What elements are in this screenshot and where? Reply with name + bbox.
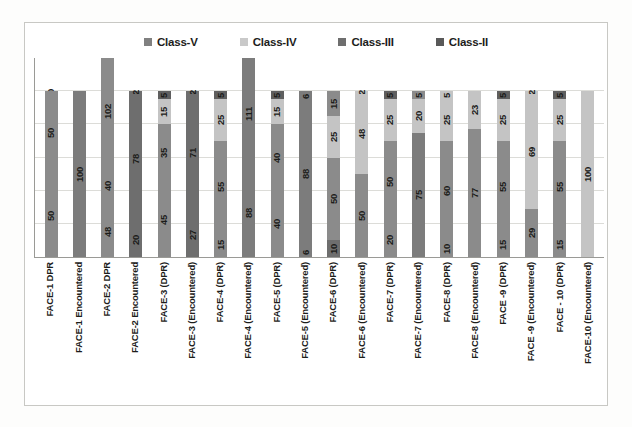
- bar-segment[interactable]: 6: [299, 247, 312, 257]
- bar-segment[interactable]: 5: [384, 91, 397, 99]
- bar-segment-label: 20: [414, 111, 424, 121]
- bar-segment[interactable]: 27: [186, 212, 199, 257]
- bar-segment[interactable]: 100: [73, 91, 86, 257]
- legend-item: Class-II: [436, 36, 488, 48]
- stacked-bar[interactable]: 5255020: [384, 91, 397, 257]
- bar-segment[interactable]: 50: [327, 158, 340, 241]
- stacked-bar[interactable]: 5255515: [497, 91, 510, 257]
- bar-segment-label: 20: [385, 235, 395, 245]
- bar-segment[interactable]: 55: [497, 141, 510, 232]
- stacked-bar[interactable]: 100: [581, 91, 594, 257]
- legend-label: Class-III: [351, 36, 393, 48]
- bar-segment[interactable]: 15: [214, 232, 227, 257]
- bar-segment[interactable]: 50: [384, 141, 397, 224]
- bar-slot: 1024048: [94, 58, 122, 257]
- bar-segment[interactable]: 15: [497, 232, 510, 257]
- bar-segment[interactable]: 20: [412, 99, 425, 132]
- x-axis-label-slot: FACE-4 (Encountered): [234, 262, 262, 412]
- bar-segment[interactable]: 20: [129, 224, 142, 257]
- bar-segment[interactable]: 40: [271, 124, 284, 190]
- bar-segment[interactable]: 88: [299, 101, 312, 247]
- bar-segment[interactable]: 15: [553, 232, 566, 257]
- bar-segment-label: 69: [527, 147, 537, 157]
- stacked-bar[interactable]: 100: [73, 91, 86, 257]
- stacked-bar[interactable]: 24850: [355, 91, 368, 257]
- x-axis-label: FACE-4 (DPR): [215, 262, 225, 324]
- bar-segment[interactable]: 25: [384, 99, 397, 140]
- bar-segment-label: 48: [103, 227, 113, 237]
- bar-segment[interactable]: 100: [581, 91, 594, 257]
- bar-segment[interactable]: 10: [440, 240, 453, 257]
- bar-segment[interactable]: 50: [355, 174, 368, 257]
- x-axis-label: FACE-2 Encountered: [130, 262, 140, 355]
- bar-segment[interactable]: 75: [412, 133, 425, 257]
- bar-segment[interactable]: 40: [101, 165, 114, 207]
- bar-segment-label: 6: [301, 250, 311, 255]
- bar-segment[interactable]: 77: [468, 129, 481, 257]
- stacked-bar[interactable]: 6886: [299, 91, 312, 257]
- x-axis-label: FACE-1 DPR: [45, 262, 55, 318]
- bar-segment-label: 50: [46, 128, 56, 138]
- bar-segment[interactable]: 25: [440, 99, 453, 140]
- bar-segment[interactable]: 48: [355, 94, 368, 174]
- bar-segment[interactable]: 40: [271, 191, 284, 257]
- bar-segment[interactable]: 69: [525, 94, 538, 208]
- bar-segment[interactable]: 102: [101, 58, 114, 165]
- bar-segment[interactable]: 29: [525, 209, 538, 257]
- bar-segment-label: 102: [103, 104, 113, 119]
- bar-segment[interactable]: 5: [497, 91, 510, 99]
- bar-segment[interactable]: 15: [158, 99, 171, 124]
- bar-segment[interactable]: 20: [384, 224, 397, 257]
- bar-segment[interactable]: 15: [327, 91, 340, 116]
- bar-segment[interactable]: 5: [553, 91, 566, 99]
- bar-segment[interactable]: 48: [101, 207, 114, 257]
- stacked-bar[interactable]: 2377: [468, 91, 481, 257]
- bar-segment[interactable]: 5: [412, 91, 425, 99]
- stacked-bar[interactable]: 15255010: [327, 91, 340, 257]
- bar-segment[interactable]: 5: [440, 91, 453, 99]
- bar-segment[interactable]: 60: [440, 141, 453, 241]
- stacked-bar[interactable]: 27127: [186, 91, 199, 257]
- stacked-bar[interactable]: 26929: [525, 91, 538, 257]
- bar-segment-label: 6: [301, 94, 311, 99]
- stacked-bar[interactable]: 5153545: [158, 91, 171, 257]
- stacked-bar[interactable]: 27820: [129, 91, 142, 257]
- x-axis-label: FACE-3 (DPR): [159, 262, 169, 324]
- bar-segment[interactable]: 10: [327, 240, 340, 257]
- bar-segment[interactable]: 25: [214, 99, 227, 140]
- bar-segment[interactable]: 55: [553, 141, 566, 232]
- bar-segment[interactable]: 111: [242, 58, 255, 169]
- stacked-bar[interactable]: 05050: [45, 91, 58, 257]
- x-axis-label: FACE-7 (Encountered): [413, 262, 423, 361]
- stacked-bar[interactable]: 11188: [242, 58, 255, 257]
- stacked-bar[interactable]: 5256010: [440, 91, 453, 257]
- bar-segment-label: 71: [188, 148, 198, 158]
- bar-segment-label: 45: [159, 215, 169, 225]
- bar-segment[interactable]: 6: [299, 91, 312, 101]
- stacked-bar[interactable]: 5154040: [271, 91, 284, 257]
- stacked-bar[interactable]: 5255515: [214, 91, 227, 257]
- bar-segment[interactable]: 45: [158, 182, 171, 257]
- bar-segment[interactable]: 15: [271, 99, 284, 124]
- bar-segment[interactable]: 50: [45, 174, 58, 257]
- bar-slot: 5255020: [376, 58, 404, 257]
- stacked-bar[interactable]: 5255515: [553, 91, 566, 257]
- bar-segment[interactable]: 71: [186, 94, 199, 212]
- stacked-bar[interactable]: 52075: [412, 91, 425, 257]
- bar-segment[interactable]: 5: [214, 91, 227, 99]
- bar-segment[interactable]: 35: [158, 124, 171, 182]
- bar-segment[interactable]: 23: [468, 91, 481, 129]
- bar-segment[interactable]: 50: [45, 91, 58, 174]
- bar-segment[interactable]: 88: [242, 169, 255, 257]
- bar-segment[interactable]: 25: [497, 99, 510, 140]
- x-axis-label: FACE-6 (DPR): [328, 262, 338, 324]
- bar-segment[interactable]: 5: [271, 91, 284, 99]
- bar-segment[interactable]: 25: [327, 116, 340, 157]
- bar-segment[interactable]: 55: [214, 141, 227, 232]
- bar-segment[interactable]: 25: [553, 99, 566, 140]
- x-axis-label-slot: FACE-3 (Encountered): [177, 262, 205, 412]
- bar-segment[interactable]: 78: [129, 94, 142, 223]
- bar-slot: 5256010: [433, 58, 461, 257]
- bar-segment[interactable]: 5: [158, 91, 171, 99]
- stacked-bar[interactable]: 1024048: [101, 58, 114, 257]
